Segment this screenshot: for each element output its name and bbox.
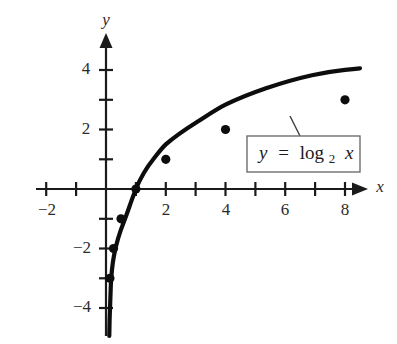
log-function-graph-figure: −2 2 4 6 8 4 2 −2 −4 y x y (0, 0, 397, 344)
marker-point-1 (109, 244, 118, 253)
y-tick-label--2: −2 (73, 238, 91, 257)
eq-lhs-y: y (257, 142, 268, 163)
y-tick-label-4: 4 (82, 59, 91, 78)
y-axis-label: y (100, 10, 110, 29)
y-axis-arrowhead (100, 33, 113, 48)
x-tick-label-6: 6 (281, 200, 290, 219)
function-label-callout: y = log 2 x (247, 136, 360, 172)
x-tick-label-8: 8 (341, 200, 350, 219)
y-tick-label--4: −4 (73, 297, 92, 316)
x-axis (36, 183, 368, 196)
log-curve (109, 68, 360, 336)
eq-base: 2 (329, 151, 336, 166)
graph-canvas: −2 2 4 6 8 4 2 −2 −4 y x y (0, 0, 397, 344)
eq-arg: x (344, 142, 354, 163)
eq-equals: = (278, 142, 289, 163)
x-axis-label: x (375, 177, 384, 196)
callout-leader-line (290, 116, 300, 136)
marker-point-4 (161, 155, 170, 164)
eq-log: log (300, 142, 325, 163)
x-axis-arrowhead (352, 183, 368, 196)
x-tick-label-4: 4 (222, 200, 231, 219)
x-tick-label-2: 2 (162, 200, 171, 219)
marker-point-0 (105, 274, 114, 283)
marker-point-6 (340, 95, 349, 104)
y-tick-label-2: 2 (82, 119, 91, 138)
marker-point-2 (116, 214, 125, 223)
marker-point-3 (131, 184, 140, 193)
x-tick-label--2: −2 (38, 200, 56, 219)
marker-point-5 (221, 125, 230, 134)
